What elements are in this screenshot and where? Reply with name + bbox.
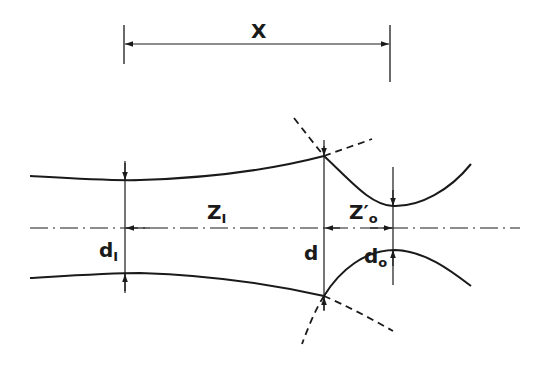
beam-diagram: X dI ZI d Z′o do	[0, 0, 543, 365]
dashed-curve-top-left	[294, 118, 324, 156]
label-z-output: Z′o	[349, 200, 378, 226]
output-beam-top	[324, 156, 471, 206]
label-x: X	[251, 19, 267, 43]
dimension-x: X	[124, 19, 390, 82]
dimension-d-lens: d	[304, 140, 324, 311]
dashed-curve-top-right	[324, 139, 372, 156]
output-beam-bottom	[324, 250, 471, 296]
dashed-curve-bottom-right	[324, 296, 393, 331]
label-z-input: ZI	[207, 200, 226, 226]
input-beam-bottom	[30, 273, 324, 296]
label-d-input: dI	[99, 238, 118, 264]
dashed-curve-bottom-left	[302, 296, 324, 344]
input-beam-top	[30, 156, 324, 180]
dimension-d-output: do	[364, 167, 393, 285]
label-d-lens: d	[304, 241, 318, 265]
dimension-z-input: ZI	[126, 200, 226, 228]
label-d-output: do	[364, 244, 387, 270]
